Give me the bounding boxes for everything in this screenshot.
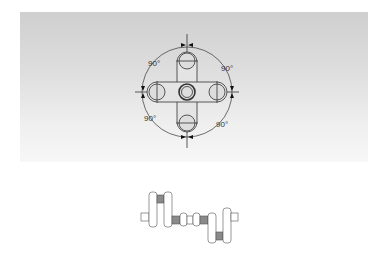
angle-label: 90° — [221, 64, 233, 73]
angle-label: 90° — [216, 120, 228, 129]
crankshaft-diagram: 90° 90° 90° 90° — [0, 0, 385, 264]
side-view-diagram — [141, 192, 238, 243]
end-view-diagram — [135, 34, 239, 148]
angle-label: 90° — [144, 114, 156, 123]
angle-label: 90° — [148, 59, 160, 68]
